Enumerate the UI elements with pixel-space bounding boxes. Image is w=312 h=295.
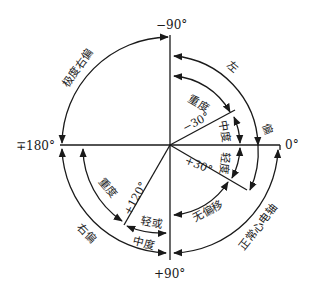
label-left: 左 [224,58,241,75]
label-minus90: −90° [156,18,187,32]
label-plus120: +120° [121,180,149,218]
label-no-deviation: 无偏移 [190,197,226,225]
label-zero: 0° [285,138,299,152]
label-moderate-lower: 中度 [131,233,156,252]
label-mild-lower: 轻或 [139,213,163,231]
label-severe-upper: 重度 [186,91,212,114]
label-180: ∓180° [16,139,55,153]
arc-left-deviation [250,145,258,190]
cardiac-axis-diagram: −90° 0° ∓180° +90° −30° +30° +120° 极度右偏 … [0,0,312,295]
label-mild-right: 轻度 [217,152,233,175]
arc-mild-right [232,148,240,178]
arc-moderate-upper [234,117,240,143]
label-plus30: +30° [183,154,214,177]
label-left-dev: 偏 [259,121,276,136]
label-plus90: +90° [154,267,185,281]
label-severe-lower: 重度 [96,175,121,201]
arc-extreme-right [62,37,168,143]
label-moderate-upper: 中度 [216,119,234,143]
label-extreme-right: 极度右偏 [59,46,96,90]
